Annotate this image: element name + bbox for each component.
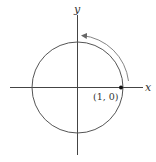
point-marker [119,86,123,90]
unit-circle-diagram: x y (1, 0) [0,0,156,162]
x-axis-label: x [145,81,152,94]
y-axis-label: y [73,3,81,16]
point-label: (1, 0) [93,91,119,102]
